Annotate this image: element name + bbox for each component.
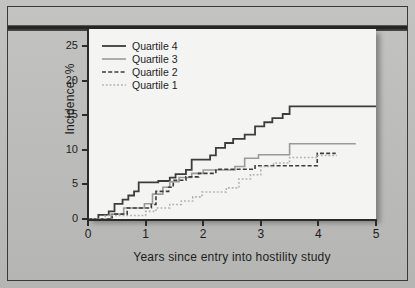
x-axis-tick-label: 1 — [136, 228, 156, 240]
x-axis-tick — [202, 221, 204, 226]
x-axis-tick — [87, 221, 89, 226]
x-axis-tick-label: 3 — [251, 228, 271, 240]
x-axis-tick-label: 0 — [78, 228, 98, 240]
y-axis-tick — [82, 80, 87, 82]
x-axis-line — [87, 219, 377, 221]
y-axis-title: Incidence, % — [63, 44, 77, 154]
x-axis-tick — [375, 221, 377, 226]
y-axis-tick-label: 20 — [52, 75, 78, 86]
y-axis-tick-label: 0 — [52, 213, 78, 224]
y-axis-tick — [82, 149, 87, 151]
y-axis-tick-label: 5 — [52, 178, 78, 189]
figure-container: Incidence, % 0510152025 012345 Quartile … — [0, 0, 415, 288]
legend-swatch-icon — [102, 81, 126, 89]
legend-item-label: Quartile 2 — [132, 67, 178, 78]
y-axis-tick — [82, 45, 87, 47]
x-axis-tick — [145, 221, 147, 226]
series-line-quartile-1 — [88, 155, 337, 219]
x-axis-tick-label: 4 — [308, 228, 328, 240]
x-axis-tick — [317, 221, 319, 226]
x-axis-tick-label: 5 — [366, 228, 386, 240]
legend-swatch-icon — [102, 68, 126, 76]
legend-item-label: Quartile 4 — [132, 41, 178, 52]
legend-swatch-icon — [102, 42, 126, 50]
y-axis-tick-label: 15 — [52, 109, 78, 120]
legend-item-label: Quartile 3 — [132, 54, 178, 65]
y-axis-tick-label: 10 — [52, 144, 78, 155]
legend-swatch-icon — [102, 55, 126, 63]
legend-item[interactable]: Quartile 4 — [102, 40, 222, 52]
series-line-quartile-4 — [88, 106, 376, 219]
legend-item[interactable]: Quartile 1 — [102, 79, 222, 91]
x-axis-tick — [260, 221, 262, 226]
y-axis-line — [87, 29, 89, 221]
y-axis-tick — [82, 218, 87, 220]
chart-legend: Quartile 4Quartile 3Quartile 2Quartile 1 — [102, 40, 222, 92]
legend-item[interactable]: Quartile 3 — [102, 53, 222, 65]
y-axis-tick — [82, 114, 87, 116]
series-line-quartile-2 — [88, 153, 336, 219]
legend-item-label: Quartile 1 — [132, 80, 178, 91]
x-axis-tick-label: 2 — [193, 228, 213, 240]
legend-item[interactable]: Quartile 2 — [102, 66, 222, 78]
y-axis-tick — [82, 183, 87, 185]
x-axis-title: Years since entry into hostility study — [88, 250, 376, 264]
y-axis-tick-label: 25 — [52, 40, 78, 51]
